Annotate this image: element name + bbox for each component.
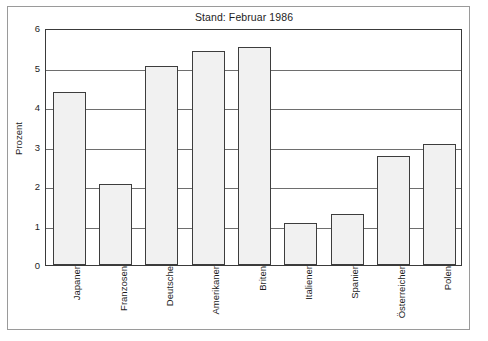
x-tick-label-text: Japaner — [72, 266, 82, 300]
bar-briten — [238, 47, 271, 265]
bar--sterreicher — [377, 156, 410, 265]
chart-figure: Stand: Februar 1986 Prozent 0123456 Japa… — [0, 0, 488, 341]
bar-italiener — [284, 223, 317, 265]
x-tick-label-deutsche: Deutsche — [165, 266, 175, 306]
x-tick-label-text: Polen — [443, 266, 453, 290]
y-tick-label: 0 — [22, 261, 40, 271]
y-tick-label: 2 — [22, 182, 40, 192]
y-tick-label: 1 — [22, 222, 40, 232]
x-tick-label-japaner: Japaner — [72, 266, 82, 300]
y-tick-label: 4 — [22, 103, 40, 113]
x-tick-label-spanier: Spanier — [350, 266, 360, 299]
y-axis-tick-labels: 0123456 — [22, 29, 40, 266]
x-tick-label-text: Österreicher — [397, 266, 407, 318]
x-tick-label-polen: Polen — [443, 266, 453, 290]
x-tick-label-text: Italiener — [304, 266, 314, 300]
bar-amerikaner — [192, 51, 225, 265]
x-tick-label-amerikaner: Amerikaner — [211, 266, 221, 315]
bar-spanier — [331, 214, 364, 265]
x-tick-label-franzosen: Franzosen — [119, 266, 129, 311]
y-tick-label: 3 — [22, 143, 40, 153]
x-tick-label-text: Spanier — [350, 266, 360, 299]
bars-layer — [46, 30, 461, 265]
y-tick-label: 6 — [22, 24, 40, 34]
x-tick-label-text: Deutsche — [165, 266, 175, 306]
x-tick-label-text: Amerikaner — [211, 266, 221, 315]
x-tick-label-text: Franzosen — [119, 266, 129, 311]
bar-deutsche — [145, 66, 178, 265]
x-axis-tick-labels: JapanerFranzosenDeutscheAmerikanerBriten… — [45, 266, 462, 338]
bar-franzosen — [99, 184, 132, 265]
bar-japaner — [53, 92, 86, 265]
x-tick-label--sterreicher: Österreicher — [397, 266, 407, 318]
x-tick-label-briten: Briten — [258, 266, 268, 291]
chart-title: Stand: Februar 1986 — [0, 11, 488, 23]
x-tick-label-italiener: Italiener — [304, 266, 314, 300]
bar-polen — [423, 144, 456, 265]
y-tick-label: 5 — [22, 64, 40, 74]
x-tick-label-text: Briten — [258, 266, 268, 291]
plot-area — [45, 29, 462, 266]
